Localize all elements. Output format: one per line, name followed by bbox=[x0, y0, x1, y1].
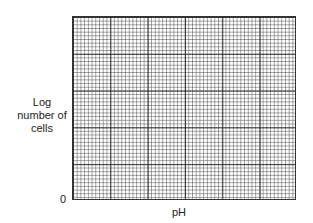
origin-label: 0 bbox=[60, 193, 66, 205]
y-axis-label-line-3: cells bbox=[12, 122, 72, 135]
x-axis-label: pH bbox=[172, 206, 186, 218]
graph-paper-grid bbox=[72, 16, 296, 200]
y-axis-label-line-2: number of bbox=[12, 109, 72, 122]
y-axis-label-line-1: Log bbox=[12, 96, 72, 109]
y-axis-label: Log number of cells bbox=[12, 96, 72, 135]
